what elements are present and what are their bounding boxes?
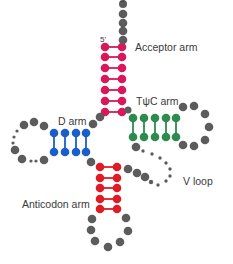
variable-nucleotide (29, 159, 32, 162)
nucleotide (172, 114, 181, 123)
nucleotide (140, 133, 149, 142)
nucleotide (151, 133, 160, 142)
variable-nucleotide (141, 149, 144, 152)
nucleotide (96, 163, 105, 172)
five-prime-label: 5' (100, 36, 106, 44)
nucleotide (72, 129, 81, 138)
nucleotide (96, 113, 105, 122)
anticodon-loop (87, 214, 133, 252)
variable-nucleotide (168, 174, 171, 177)
nucleotide (82, 148, 91, 157)
nucleotide (162, 133, 171, 142)
nucleotide (119, 19, 128, 28)
d-arm (50, 129, 91, 157)
nucleotide (96, 195, 105, 204)
nucleotide (96, 205, 105, 214)
three-prime-label: 3' (120, 0, 126, 4)
variable-nucleotide (156, 183, 159, 186)
nucleotide (190, 102, 199, 111)
nucleotide (87, 158, 96, 167)
nucleotide (122, 214, 131, 223)
anticodon-arm (96, 163, 122, 214)
nucleotide (113, 205, 122, 214)
nucleotide (91, 237, 100, 246)
nucleotide (30, 118, 39, 127)
nucleotide (201, 136, 210, 145)
nucleotide (101, 64, 110, 73)
nucleotide (201, 110, 210, 119)
nucleotide (101, 86, 110, 95)
nucleotide (96, 184, 105, 193)
nucleotide (172, 133, 181, 142)
nucleotide (20, 121, 29, 130)
nucleotide (118, 86, 127, 95)
trna-cloverleaf-diagram (0, 0, 233, 264)
nucleotide (124, 227, 133, 236)
tpsic-arm-label: TψC arm (136, 96, 178, 107)
nucleotide (118, 75, 127, 84)
nucleotide (104, 243, 113, 252)
nucleotide (11, 146, 20, 155)
tpsic-to-acceptor-connector (125, 107, 132, 114)
d-to-anticodon-connector (87, 158, 96, 167)
nucleotide (40, 122, 49, 131)
nucleotide (101, 75, 110, 84)
nucleotide (50, 129, 59, 138)
nucleotide (87, 226, 96, 235)
nucleotide (124, 165, 133, 174)
nucleotide (89, 120, 98, 129)
nucleotide (132, 143, 141, 152)
variable-nucleotide (164, 179, 167, 182)
d-loop (11, 118, 49, 165)
nucleotide (141, 173, 150, 182)
nucleotide (119, 36, 128, 45)
variable-nucleotide (12, 135, 15, 138)
nucleotide (125, 107, 132, 114)
nucleotide (88, 215, 97, 224)
variable-nucleotide (34, 159, 37, 162)
variable-nucleotide (11, 141, 14, 144)
tpsic-arm (129, 114, 181, 142)
variable-nucleotide (149, 180, 153, 184)
three-prime-tail (119, 0, 128, 44)
nucleotide (129, 133, 138, 142)
nucleotide (101, 53, 110, 62)
nucleotide (118, 97, 127, 106)
anticodon-arm-label: Anticodon arm (22, 199, 90, 210)
nucleotide (82, 129, 91, 138)
nucleotide (118, 64, 127, 73)
variable-nucleotide (150, 152, 153, 155)
nucleotide (133, 169, 142, 178)
nucleotide (205, 123, 214, 132)
nucleotide (140, 114, 149, 123)
nucleotide (116, 238, 125, 247)
nucleotide (162, 114, 171, 123)
nucleotide (179, 103, 188, 112)
nucleotide (61, 148, 70, 157)
nucleotide (113, 184, 122, 193)
nucleotide (113, 174, 122, 183)
variable-nucleotide (164, 161, 167, 164)
nucleotide (113, 163, 122, 172)
variable-nucleotide (158, 156, 161, 159)
nucleotide (179, 141, 188, 150)
stems-group (50, 43, 181, 214)
nucleotide (18, 155, 27, 164)
nucleotide (40, 156, 49, 165)
acceptor-to-d-connector (89, 113, 105, 129)
loops-group (11, 0, 214, 251)
variable-nucleotide (15, 129, 18, 132)
nucleotide (119, 27, 128, 36)
nucleotide (118, 53, 127, 62)
anticodon-to-variable-connector (124, 165, 154, 185)
nucleotide (72, 148, 81, 157)
nucleotide (119, 10, 128, 19)
acceptor-arm (101, 43, 127, 117)
tpsic-loop (179, 102, 214, 151)
nucleotide (96, 174, 105, 183)
v-loop-label: V loop (183, 176, 213, 187)
nucleotide (151, 114, 160, 123)
nucleotide (50, 148, 59, 157)
nucleotide (101, 97, 110, 106)
variable-nucleotide (168, 167, 171, 170)
